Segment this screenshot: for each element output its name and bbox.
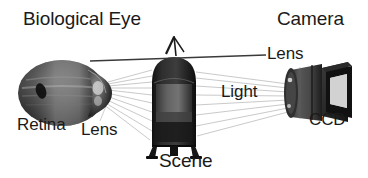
- label-biological-eye: Biological Eye: [23, 9, 141, 28]
- label-retina: Retina: [17, 116, 66, 133]
- scene-object-graphic: [146, 36, 202, 159]
- label-light: Light: [221, 83, 257, 100]
- diagram-figure: Biological Eye Camera Retina Lens Scene …: [0, 0, 368, 178]
- label-ccd: CCD: [309, 111, 346, 128]
- label-lens-camera: Lens: [267, 45, 303, 62]
- label-camera: Camera: [277, 9, 344, 28]
- label-lens-eye: Lens: [81, 121, 117, 138]
- label-scene: Scene: [159, 151, 212, 170]
